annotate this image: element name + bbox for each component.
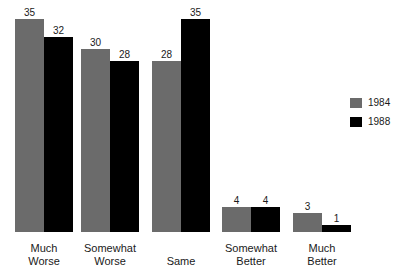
bar-1988-same[interactable] bbox=[181, 19, 210, 232]
legend-swatch-1984-icon bbox=[350, 98, 362, 108]
bar-1984-somewhat-better[interactable] bbox=[222, 207, 251, 232]
bar-chart: 35 32 Much Worse 30 28 Somewhat Worse 28… bbox=[0, 0, 416, 270]
bar-value-1988-somewhat-better: 4 bbox=[251, 195, 280, 206]
bar-value-1984-much-worse: 35 bbox=[15, 7, 44, 18]
bar-value-1984-somewhat-better: 4 bbox=[222, 195, 251, 206]
legend: 1984 1988 bbox=[350, 95, 408, 133]
bar-value-1984-same: 28 bbox=[152, 49, 181, 60]
bar-1988-somewhat-better[interactable] bbox=[251, 207, 280, 232]
bar-value-1988-somewhat-worse: 28 bbox=[110, 49, 139, 60]
legend-item-1988[interactable]: 1988 bbox=[350, 114, 408, 129]
bar-1988-somewhat-worse[interactable] bbox=[110, 61, 139, 232]
axis-label-much-better: Much Better bbox=[267, 242, 377, 268]
legend-label-1984: 1984 bbox=[368, 97, 390, 108]
legend-swatch-1988-icon bbox=[350, 117, 362, 127]
bar-value-1988-much-better: 1 bbox=[322, 213, 351, 224]
bar-1984-somewhat-worse[interactable] bbox=[81, 49, 110, 232]
bar-value-1984-somewhat-worse: 30 bbox=[81, 37, 110, 48]
bar-1984-much-worse[interactable] bbox=[15, 19, 44, 232]
bar-1984-much-better[interactable] bbox=[293, 213, 322, 232]
bar-value-1984-much-better: 3 bbox=[293, 201, 322, 212]
bar-1984-same[interactable] bbox=[152, 61, 181, 232]
legend-item-1984[interactable]: 1984 bbox=[350, 95, 408, 110]
bar-1988-much-better[interactable] bbox=[322, 225, 351, 232]
bar-1988-much-worse[interactable] bbox=[44, 37, 73, 232]
plot-area: 35 32 Much Worse 30 28 Somewhat Worse 28… bbox=[0, 0, 370, 270]
legend-label-1988: 1988 bbox=[368, 116, 390, 127]
bar-value-1988-same: 35 bbox=[181, 7, 210, 18]
bar-value-1988-much-worse: 32 bbox=[44, 25, 73, 36]
